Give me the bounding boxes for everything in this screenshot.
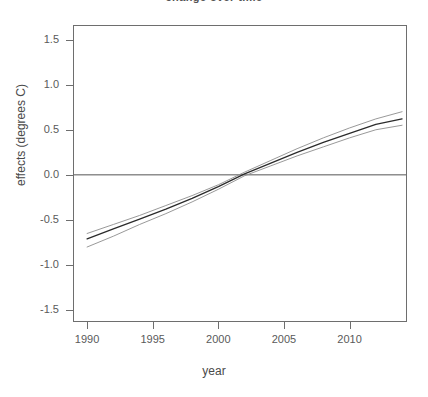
y-tick-label: -1.0	[25, 258, 59, 270]
x-tick-mark	[153, 322, 154, 329]
chart-figure: change over time 1.51.00.50.0-0.5-1.0-1.…	[0, 0, 428, 397]
y-tick-label: 1.5	[25, 33, 59, 45]
y-tick-mark	[66, 85, 73, 86]
x-tick-mark	[284, 322, 285, 329]
x-tick-mark	[87, 322, 88, 329]
series-line	[87, 125, 402, 247]
y-tick-label: -0.5	[25, 213, 59, 225]
y-tick-mark	[66, 220, 73, 221]
y-tick-mark	[66, 310, 73, 311]
x-tick-mark	[218, 322, 219, 329]
y-tick-mark	[66, 265, 73, 266]
x-tick-label: 2000	[195, 333, 241, 345]
y-tick-mark	[66, 40, 73, 41]
y-tick-label: 0.5	[25, 123, 59, 135]
y-axis-title: effects (degrees C)	[14, 70, 28, 200]
plot-svg	[74, 26, 406, 321]
series-line	[87, 112, 402, 234]
y-tick-label: 1.0	[25, 78, 59, 90]
series-lines-group	[87, 112, 402, 247]
y-tick-mark	[66, 175, 73, 176]
x-tick-label: 2010	[327, 333, 373, 345]
plot-area	[73, 25, 407, 322]
page-title: change over time	[0, 0, 428, 3]
series-line	[87, 119, 402, 239]
x-tick-label: 1995	[130, 333, 176, 345]
y-tick-label: 0.0	[25, 168, 59, 180]
x-tick-label: 2005	[261, 333, 307, 345]
y-tick-label: -1.5	[25, 303, 59, 315]
x-axis-title: year	[0, 364, 428, 378]
x-tick-label: 1990	[64, 333, 110, 345]
y-tick-mark	[66, 130, 73, 131]
x-tick-mark	[350, 322, 351, 329]
